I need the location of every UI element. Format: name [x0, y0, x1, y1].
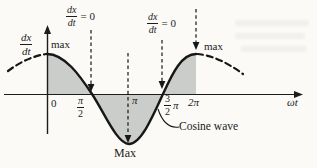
y-axis-label-dx-dt: dx dt	[20, 32, 32, 57]
derivative-zero-1-numerator: dx	[66, 5, 77, 17]
tick-label-2pi: 2π	[188, 97, 199, 108]
derivative-zero-label-1: dx dt = 0	[66, 5, 95, 28]
max-label-2pi: max	[204, 41, 223, 52]
tick-pi-over-2-numerator: π	[77, 96, 84, 108]
curve-name-label: Cosine wave	[179, 121, 238, 133]
derivative-zero-2-equals: = 0	[161, 18, 175, 29]
derivative-zero-1-fraction: dx dt	[66, 5, 77, 28]
three-halves-fraction: 3 2	[164, 94, 171, 117]
derivative-zero-2-fraction: dx dt	[147, 12, 158, 35]
x-axis-label-omega-t: ωt	[287, 97, 298, 108]
derivative-zero-2-numerator: dx	[147, 12, 158, 24]
tick-label-pi: π	[132, 95, 138, 106]
three-halves-denominator: 2	[165, 106, 170, 117]
derivative-zero-arrow-2-head-icon	[159, 81, 166, 89]
tick-label-three-halves-pi: 3 2 π	[164, 94, 179, 117]
max-label-origin: max	[51, 39, 70, 50]
y-axis-label-numerator: dx	[20, 32, 32, 45]
max-label-trough: Max	[114, 147, 136, 159]
tick-label-pi-over-2: π 2	[77, 96, 84, 119]
derivative-zero-label-2: dx dt = 0	[147, 12, 176, 35]
derivative-zero-2-denominator: dt	[149, 24, 157, 35]
three-halves-numerator: 3	[164, 94, 171, 106]
derivative-zero-1-equals: = 0	[80, 11, 94, 22]
page-bleed-through	[235, 20, 313, 76]
cosine-wave-figure: dx dt max dx dt = 0 dx dt = 0 max Max 0 …	[0, 0, 317, 168]
y-axis-arrowhead-icon	[44, 25, 51, 34]
y-axis-label-denominator: dt	[22, 45, 31, 57]
tick-pi-over-2-denominator: 2	[78, 108, 83, 119]
derivative-zero-1-denominator: dt	[68, 17, 76, 28]
tick-label-0: 0	[51, 98, 57, 109]
max-arrow-2pi-head-icon	[193, 42, 200, 50]
three-halves-pi-symbol: π	[173, 100, 179, 111]
